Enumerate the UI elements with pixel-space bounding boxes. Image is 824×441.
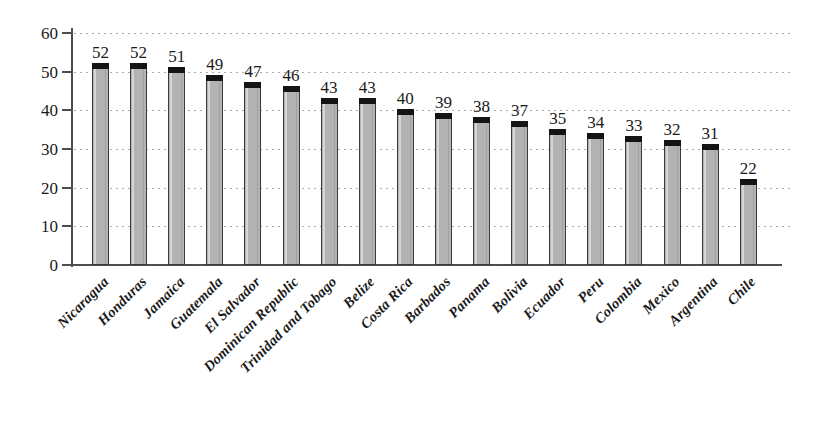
- bar-texture: [93, 69, 108, 264]
- bar[interactable]: [130, 64, 147, 265]
- bar-texture: [207, 81, 222, 264]
- bar-cap: [206, 75, 223, 81]
- bar[interactable]: [702, 145, 719, 265]
- bar[interactable]: [244, 83, 261, 265]
- bar-cap: [511, 121, 528, 127]
- bar[interactable]: [625, 137, 642, 265]
- bar-cap: [587, 133, 604, 139]
- bar-cap: [664, 140, 681, 146]
- bar-cap: [549, 129, 566, 135]
- y-axis-tick-label: 0: [22, 257, 58, 274]
- bar[interactable]: [587, 134, 604, 265]
- bar-value-label: 31: [687, 125, 733, 142]
- bar[interactable]: [435, 114, 452, 265]
- bar[interactable]: [206, 76, 223, 265]
- gridline: [72, 33, 790, 34]
- bar[interactable]: [549, 130, 566, 265]
- bar-texture: [169, 73, 184, 264]
- y-axis-tick-label: 30: [22, 141, 58, 158]
- bar-texture: [322, 104, 337, 264]
- bar-texture: [245, 88, 260, 264]
- y-axis-tick-label: 40: [22, 102, 58, 119]
- y-axis-tick: [62, 148, 71, 150]
- bar-cap: [359, 98, 376, 104]
- bar-value-label: 22: [725, 160, 771, 177]
- bar-texture: [665, 146, 680, 264]
- bar-texture: [436, 119, 451, 264]
- bar[interactable]: [321, 99, 338, 265]
- bar[interactable]: [92, 64, 109, 265]
- bar-texture: [360, 104, 375, 264]
- bar-texture: [398, 115, 413, 264]
- y-axis-tick-label: 50: [22, 64, 58, 81]
- y-axis-tick: [62, 225, 71, 227]
- bar-texture: [550, 135, 565, 264]
- bar-cap: [740, 179, 757, 185]
- bar-cap: [130, 63, 147, 69]
- y-axis-tick-label: 60: [22, 25, 58, 42]
- bar-texture: [703, 150, 718, 264]
- bar-texture: [512, 127, 527, 264]
- bar-cap: [244, 82, 261, 88]
- bar[interactable]: [511, 122, 528, 265]
- bar-texture: [626, 142, 641, 264]
- bar[interactable]: [359, 99, 376, 265]
- bar-cap: [168, 67, 185, 73]
- y-axis-tick: [62, 32, 71, 34]
- bar-chart: 0102030405060 52525149474643434039383735…: [0, 0, 824, 441]
- bar[interactable]: [283, 87, 300, 265]
- bar-cap: [625, 136, 642, 142]
- bar-cap: [473, 117, 490, 123]
- bar-cap: [702, 144, 719, 150]
- bar-texture: [474, 123, 489, 264]
- bar-cap: [321, 98, 338, 104]
- y-axis-tick-label: 20: [22, 180, 58, 197]
- bar-texture: [131, 69, 146, 264]
- bar[interactable]: [664, 141, 681, 265]
- bar[interactable]: [740, 180, 757, 265]
- y-axis-tick-label: 10: [22, 218, 58, 235]
- y-axis-tick: [62, 109, 71, 111]
- bar[interactable]: [397, 110, 414, 265]
- y-axis-tick: [62, 187, 71, 189]
- y-axis-line: [71, 28, 73, 267]
- bar[interactable]: [473, 118, 490, 265]
- bar-texture: [588, 139, 603, 264]
- bar-texture: [284, 92, 299, 264]
- bar-cap: [397, 109, 414, 115]
- bar-cap: [283, 86, 300, 92]
- bar-cap: [435, 113, 452, 119]
- bar-texture: [741, 185, 756, 264]
- y-axis-tick: [62, 71, 71, 73]
- bar[interactable]: [168, 68, 185, 265]
- bar-cap: [92, 63, 109, 69]
